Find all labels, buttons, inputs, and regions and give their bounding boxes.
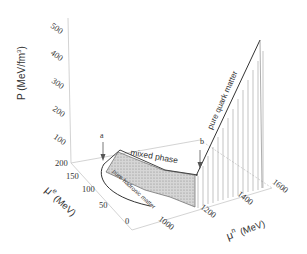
- svg-text:150: 150: [66, 171, 79, 181]
- z-axis-ticks: 500 400 300 200 100: [49, 20, 68, 147]
- svg-text:500: 500: [49, 20, 65, 36]
- svg-text:200: 200: [55, 158, 68, 168]
- svg-text:100: 100: [52, 131, 68, 147]
- label-a: a: [100, 131, 104, 140]
- svg-text:100: 100: [82, 184, 95, 194]
- svg-text:1400: 1400: [236, 189, 256, 207]
- y-axis-label: μe(MeV): [43, 183, 80, 218]
- svg-text:300: 300: [50, 75, 66, 91]
- svg-text:200: 200: [51, 103, 67, 119]
- phase-diagram-3d: a b mixed phase pure hadronic matter pur…: [0, 0, 307, 254]
- svg-text:400: 400: [49, 47, 65, 63]
- quark-wall-right-edge: [260, 40, 262, 188]
- svg-text:1000: 1000: [157, 214, 177, 232]
- arrow-a: a: [100, 131, 106, 161]
- svg-text:1600: 1600: [271, 177, 291, 195]
- z-axis-label: P (MeV/fm3): [16, 46, 27, 100]
- label-b: b: [200, 137, 204, 146]
- svg-text:0: 0: [125, 216, 129, 226]
- x-axis-label: μn(MeV): [224, 216, 266, 242]
- svg-text:50: 50: [99, 200, 108, 210]
- label-pure-quark: pure quark matter: [206, 69, 240, 131]
- svg-text:1200: 1200: [199, 202, 219, 220]
- arrow-b: b: [198, 137, 205, 169]
